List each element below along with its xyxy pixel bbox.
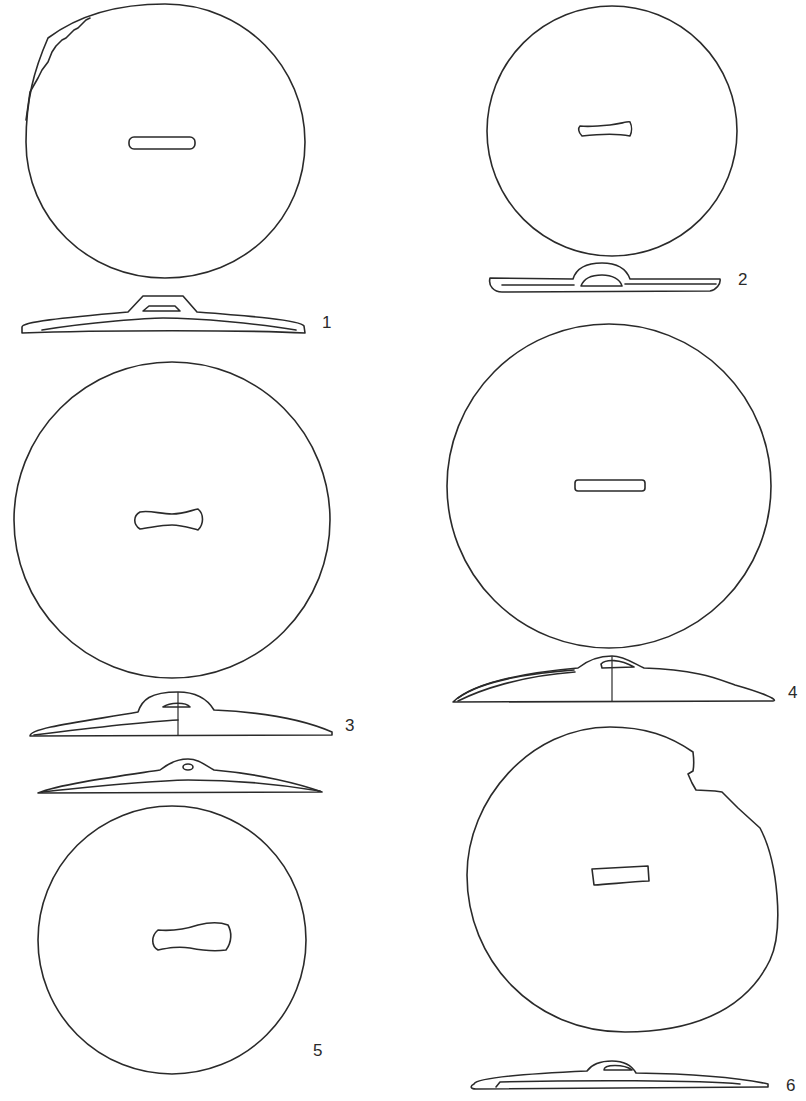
figure-5-plan-view — [38, 806, 306, 1074]
figure-6-side-profile — [471, 1061, 768, 1089]
figure-2-plan-view — [487, 6, 737, 256]
drawing-plate — [0, 0, 806, 1101]
figure-4-plan-view — [447, 324, 771, 648]
figure-6-plan-view — [467, 727, 778, 1032]
figure-4-number: 4 — [788, 684, 797, 701]
figure-2-number: 2 — [738, 271, 747, 288]
slot-4 — [575, 480, 645, 491]
slot-2 — [579, 122, 632, 136]
figure-2-side-profile — [490, 263, 721, 292]
slot-5 — [153, 923, 231, 951]
slot-6 — [592, 866, 649, 885]
slot-3 — [135, 509, 203, 530]
figure-1-number: 1 — [322, 314, 331, 331]
figure-5-number: 5 — [313, 1042, 322, 1059]
figure-1-side-profile — [22, 296, 305, 333]
figure-5-side-profile — [38, 759, 322, 793]
figure-4-side-profile — [453, 656, 774, 702]
figure-3-plan-view — [14, 362, 330, 678]
slot-1 — [129, 137, 195, 149]
figure-3-side-profile — [30, 692, 332, 736]
figure-1-plan-view — [26, 4, 305, 278]
figure-3-number: 3 — [345, 717, 354, 734]
figure-6-number: 6 — [786, 1077, 795, 1094]
